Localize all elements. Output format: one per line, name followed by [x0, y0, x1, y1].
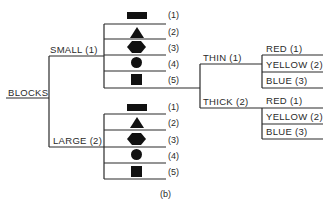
branch-label-small: SMALL (1) — [50, 45, 98, 55]
triangle-icon — [130, 27, 144, 38]
color-label-yellow: YELLOW (2) — [266, 112, 323, 122]
shape-label: (3) — [168, 136, 179, 145]
shape-label: (5) — [168, 168, 179, 177]
color-label-yellow: YELLOW (2) — [266, 60, 323, 70]
bar-icon — [127, 12, 147, 19]
shape-label: (2) — [168, 119, 179, 128]
circle-icon — [131, 149, 142, 160]
figure-caption: (b) — [160, 190, 171, 199]
shape-label: (1) — [168, 11, 179, 20]
triangle-icon — [130, 117, 144, 128]
hexagon-icon — [127, 41, 146, 53]
shape-label: (5) — [168, 76, 179, 85]
branch-label-thin: THIN (1) — [203, 53, 242, 63]
branch-label-thick: THICK (2) — [203, 97, 248, 107]
shape-label: (2) — [168, 28, 179, 37]
shape-label: (3) — [168, 44, 179, 53]
root-label-blocks: BLOCKS — [8, 88, 48, 98]
square-icon — [131, 166, 142, 177]
color-label-red: RED (1) — [266, 44, 302, 54]
shape-label: (1) — [168, 103, 179, 112]
bar-icon — [127, 104, 147, 111]
color-label-blue: BLUE (3) — [266, 127, 307, 137]
branch-label-large: LARGE (2) — [53, 136, 102, 146]
color-label-red: RED (1) — [266, 96, 302, 106]
shape-label: (4) — [168, 152, 179, 161]
hexagon-icon — [127, 133, 146, 145]
shape-label: (4) — [168, 60, 179, 69]
circle-icon — [131, 57, 142, 68]
square-icon — [131, 74, 142, 85]
color-label-blue: BLUE (3) — [266, 76, 307, 86]
